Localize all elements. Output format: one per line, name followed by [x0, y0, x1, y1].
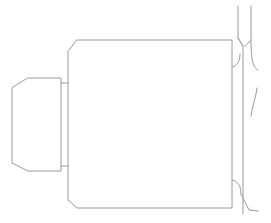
shaft-curve [251, 40, 258, 70]
collar [61, 83, 68, 166]
shaft-curve [232, 54, 240, 67]
shaft-line [245, 6, 251, 46]
shaft-curve [232, 180, 241, 194]
right-shaft-assembly [232, 6, 258, 214]
drawing-canvas [0, 0, 271, 223]
end-cap [12, 78, 61, 171]
main-body [68, 40, 232, 208]
shaft-curve [251, 88, 257, 116]
shaft-curve [241, 194, 258, 211]
shaft-line [238, 6, 243, 214]
main-body-outline [68, 40, 232, 208]
end-cap-outline [12, 78, 61, 171]
shaft-line [238, 38, 243, 46]
technical-drawing [0, 0, 271, 223]
